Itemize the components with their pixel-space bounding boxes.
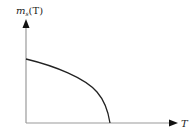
magnetization-curve	[26, 59, 110, 123]
y-axis-arrow-icon	[23, 19, 30, 28]
x-axis-arrow-icon	[169, 120, 178, 127]
magnetization-diagram: ms(T) T	[0, 0, 195, 134]
y-axis-label: ms(T)	[16, 5, 43, 17]
x-axis-label: T	[181, 118, 189, 129]
